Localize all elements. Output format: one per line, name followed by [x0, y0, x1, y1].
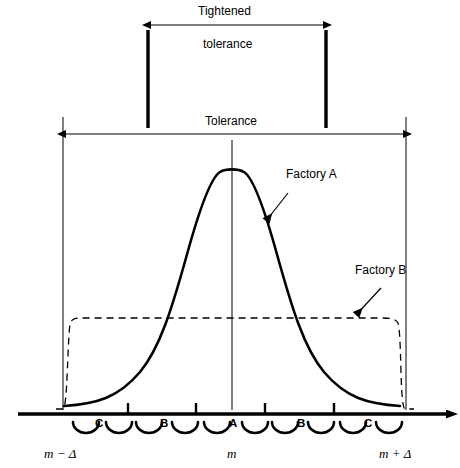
grade-label-b-right: B: [297, 418, 305, 430]
grade-arc: [172, 422, 198, 433]
grade-arc: [308, 422, 334, 433]
grade-arc: [204, 422, 230, 433]
tightened-tolerance-label-line1: Tightened: [198, 5, 251, 17]
axis-label-m: m: [227, 447, 236, 460]
grade-label-c-right: C: [364, 418, 372, 430]
grade-arc: [272, 422, 298, 433]
grade-label-b-left: B: [160, 418, 168, 430]
tolerance-label: Tolerance: [205, 115, 257, 127]
factory-b-leader-arrow: [356, 288, 381, 315]
grade-arc: [106, 422, 132, 433]
grade-label-a: A: [229, 418, 237, 430]
grade-arc: [340, 422, 366, 433]
tightened-tolerance-label-line2: tolerance: [203, 38, 252, 50]
factory-a-annotation-label: Factory A: [286, 168, 337, 180]
grade-arc: [136, 422, 162, 433]
tolerance-distribution-figure: Tightened tolerance Tolerance Factory A …: [0, 0, 460, 468]
axis-label-m-minus-delta: m − Δ: [44, 447, 76, 460]
factory-b-annotation-label: Factory B: [355, 264, 406, 276]
grade-bin-arcs: [73, 422, 402, 433]
axis-label-m-plus-delta: m + Δ: [379, 447, 411, 460]
grade-arc: [242, 422, 268, 433]
grade-label-c-left: C: [95, 418, 103, 430]
grade-arc: [376, 422, 402, 433]
factory-a-leader-arrow: [266, 193, 288, 221]
figure-canvas: [0, 0, 460, 468]
